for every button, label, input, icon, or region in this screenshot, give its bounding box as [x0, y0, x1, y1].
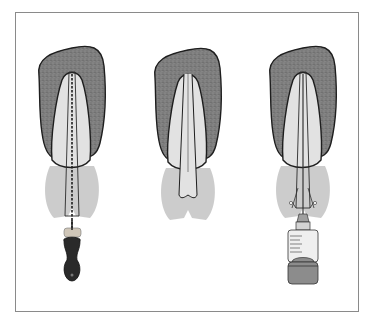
- syringe-plunger-icon: [288, 262, 318, 284]
- syringe-hub-icon: [297, 214, 309, 222]
- panel-2-tooth: [155, 48, 222, 220]
- hand-file-instrument: [64, 220, 81, 281]
- panel-1-tooth: [39, 46, 106, 228]
- diagram-canvas: [0, 0, 369, 325]
